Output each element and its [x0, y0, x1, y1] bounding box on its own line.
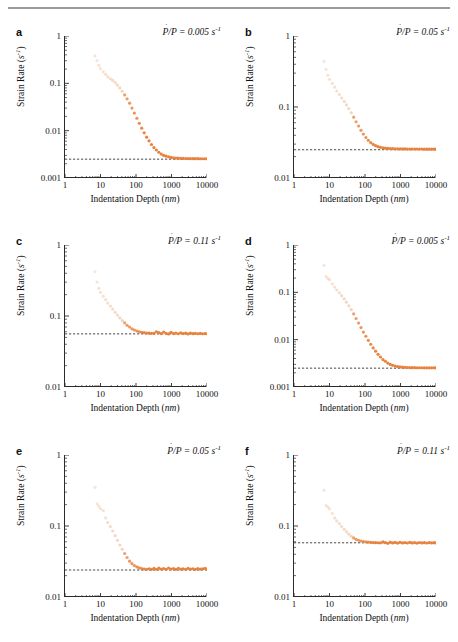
- data-point: [345, 530, 348, 533]
- y-tick-1: 1: [286, 450, 291, 460]
- data-point: [128, 102, 131, 105]
- x-tick-1: 1: [63, 389, 68, 399]
- data-point: [331, 512, 334, 515]
- x-tick-100: 100: [358, 180, 372, 190]
- x-tick-100: 100: [129, 180, 143, 190]
- y-tick-0.01: 0.01: [45, 382, 61, 392]
- data-point: [140, 127, 143, 130]
- x-tick-10000: 10000: [425, 389, 448, 399]
- data-point: [328, 78, 331, 81]
- data-point: [121, 548, 124, 551]
- data-point: [345, 103, 348, 106]
- data-point: [118, 543, 121, 546]
- data-point: [109, 304, 112, 307]
- data-point: [104, 298, 107, 301]
- figure-panel-grid: aP˙/P = 0.005 s-1Strain Rate (s-1)Indent…: [0, 14, 458, 642]
- data-point: [322, 264, 325, 267]
- data-point: [116, 539, 119, 542]
- panel-label-d: d: [245, 235, 252, 247]
- y-axis-label-b: Strain Rate (s-1): [243, 46, 255, 107]
- x-tick-10000: 10000: [196, 180, 219, 190]
- x-tick-1000: 1000: [163, 180, 181, 190]
- x-tick-100: 100: [358, 389, 372, 399]
- y-tick-0.01: 0.01: [45, 592, 61, 602]
- data-point: [345, 301, 348, 304]
- data-point: [114, 311, 117, 314]
- data-point: [102, 70, 105, 73]
- data-point: [143, 131, 146, 134]
- data-point: [114, 81, 117, 84]
- data-point: [99, 67, 102, 70]
- data-point: [352, 312, 355, 315]
- x-tick-100: 100: [129, 599, 143, 609]
- data-point: [340, 96, 343, 99]
- data-point: [125, 97, 128, 100]
- data-point: [97, 64, 100, 67]
- data-point: [106, 75, 109, 78]
- data-point: [333, 286, 336, 289]
- data-point: [364, 136, 367, 139]
- data-point: [338, 93, 341, 96]
- data-point: [97, 287, 100, 290]
- data-point: [364, 335, 367, 338]
- data-point: [347, 107, 350, 110]
- data-point: [104, 516, 107, 519]
- x-axis-label-a: Indentation Depth (nm): [64, 194, 206, 204]
- y-tick-1: 1: [286, 240, 291, 250]
- data-point: [369, 343, 372, 346]
- data-point: [111, 308, 114, 311]
- data-point: [322, 60, 325, 63]
- panel-c: cP˙/P = 0.11 s-1Strain Rate (s-1)Indenta…: [0, 223, 229, 433]
- data-point: [328, 278, 331, 281]
- x-tick-10: 10: [96, 180, 105, 190]
- data-point: [145, 136, 148, 139]
- data-point: [324, 68, 327, 71]
- data-point: [359, 129, 362, 132]
- x-tick-1000: 1000: [392, 180, 410, 190]
- data-point: [347, 532, 350, 535]
- x-tick-10: 10: [96, 599, 105, 609]
- data-point: [340, 294, 343, 297]
- data-point: [121, 90, 124, 93]
- plot-area-b: 10.10.01110100100010000: [293, 36, 435, 178]
- y-axis-label-d: Strain Rate (s-1): [243, 255, 255, 316]
- panel-label-c: c: [16, 235, 22, 247]
- x-tick-10000: 10000: [425, 180, 448, 190]
- x-tick-1: 1: [292, 599, 297, 609]
- panel-label-f: f: [245, 445, 249, 457]
- data-point: [123, 321, 126, 324]
- x-tick-10: 10: [325, 599, 334, 609]
- data-point: [350, 111, 353, 114]
- data-point: [357, 321, 360, 324]
- y-tick-0.01: 0.01: [45, 126, 61, 136]
- data-point: [347, 304, 350, 307]
- data-point: [328, 507, 331, 510]
- panel-e: eP˙/P = 0.05 s-1Strain Rate (s-1)Indenta…: [0, 433, 229, 642]
- data-point: [123, 93, 126, 96]
- panel-label-b: b: [245, 26, 252, 38]
- y-tick-1: 1: [57, 240, 62, 250]
- panel-a: aP˙/P = 0.005 s-1Strain Rate (s-1)Indent…: [0, 14, 229, 223]
- y-tick-0.1: 0.1: [50, 521, 61, 531]
- data-point: [135, 117, 138, 120]
- x-tick-1: 1: [63, 599, 68, 609]
- x-axis-label-b: Indentation Depth (nm): [293, 194, 435, 204]
- x-tick-1: 1: [292, 389, 297, 399]
- data-point: [352, 116, 355, 119]
- x-axis-label-c: Indentation Depth (nm): [64, 403, 206, 413]
- data-point: [111, 529, 114, 532]
- data-point: [95, 59, 98, 62]
- data-point: [362, 330, 365, 333]
- data-point: [322, 489, 325, 492]
- data-point: [118, 316, 121, 319]
- x-axis-label-e: Indentation Depth (nm): [64, 613, 206, 623]
- x-tick-10000: 10000: [425, 599, 448, 609]
- data-point: [350, 308, 353, 311]
- x-tick-10: 10: [325, 180, 334, 190]
- data-point: [335, 519, 338, 522]
- data-point: [357, 124, 360, 127]
- y-tick-1: 1: [57, 450, 62, 460]
- y-axis-label-a: Strain Rate (s-1): [14, 46, 26, 107]
- data-point: [340, 525, 343, 528]
- data-point: [133, 112, 136, 115]
